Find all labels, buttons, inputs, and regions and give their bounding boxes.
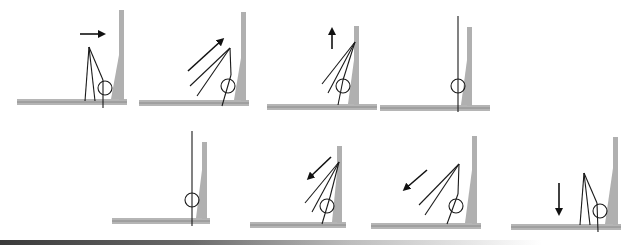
bottom-edge-rule bbox=[0, 240, 638, 245]
panel-8 bbox=[511, 137, 621, 232]
linkage bbox=[580, 173, 607, 232]
floor-bar bbox=[511, 224, 621, 230]
panel-3 bbox=[267, 26, 377, 110]
joint-circle bbox=[593, 204, 607, 218]
floor-bar bbox=[380, 105, 490, 111]
wall-post bbox=[111, 10, 124, 100]
linkage bbox=[190, 48, 235, 106]
floor-bar bbox=[267, 104, 377, 110]
panel-7 bbox=[371, 136, 481, 229]
down-left-arrow-icon bbox=[405, 170, 427, 189]
panel-2 bbox=[139, 12, 249, 106]
diagram-canvas bbox=[0, 0, 638, 245]
wall-post bbox=[461, 27, 472, 106]
floor-bar bbox=[112, 218, 210, 224]
panel-5 bbox=[112, 131, 210, 226]
wall-post bbox=[196, 142, 207, 219]
panel-4 bbox=[380, 16, 490, 112]
floor-bar bbox=[250, 222, 346, 228]
floor-bar bbox=[371, 223, 481, 229]
wall-post bbox=[348, 26, 359, 105]
wall-post bbox=[234, 12, 246, 101]
wall-post bbox=[465, 136, 477, 224]
linkage bbox=[85, 47, 112, 108]
floor-bar bbox=[17, 99, 127, 105]
joint-circle bbox=[98, 81, 112, 95]
floor-bar bbox=[139, 100, 249, 106]
joint-circle bbox=[449, 199, 463, 213]
panel-1 bbox=[17, 10, 127, 108]
linkage bbox=[419, 164, 463, 224]
panel-6 bbox=[250, 146, 346, 228]
